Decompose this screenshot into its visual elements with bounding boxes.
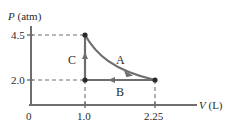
- y-tick-label-45: 4.5: [11, 30, 25, 41]
- x-axis-unit: (L): [208, 99, 222, 111]
- process-c-arrowhead-icon: [82, 52, 88, 59]
- process-label-c: C: [68, 54, 76, 66]
- x-tick-label-225: 2.25: [144, 111, 163, 122]
- process-label-b: B: [116, 86, 124, 98]
- x-tick-label-0: 0: [26, 111, 32, 122]
- y-axis-unit: (atm): [17, 10, 41, 22]
- pv-diagram-figure: P (atm) V (L) 4.5 2.0 0 1.0 2.25 C A B: [0, 0, 230, 135]
- x-axis-title: V (L): [199, 100, 223, 111]
- state-point-bottom-right: [152, 77, 157, 82]
- x-tick-label-10: 1.0: [77, 111, 91, 122]
- axis-ticks: [27, 35, 155, 108]
- y-axis-symbol: P: [8, 10, 15, 22]
- process-b-arrowhead-icon: [108, 77, 115, 83]
- process-label-a: A: [116, 54, 125, 66]
- state-point-top-left: [82, 32, 87, 37]
- y-axis-title: P (atm): [8, 11, 41, 22]
- axes-lines: [30, 27, 196, 105]
- process-c-path: [82, 35, 88, 80]
- state-point-bottom-left: [82, 77, 87, 82]
- x-axis-symbol: V: [199, 99, 206, 111]
- y-tick-label-20: 2.0: [11, 75, 25, 86]
